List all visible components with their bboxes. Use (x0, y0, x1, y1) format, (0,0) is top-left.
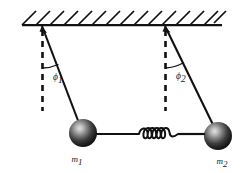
spring-coils (139, 128, 178, 138)
pendulum-right: ϕ2 m2 (163, 26, 233, 169)
angle-arc-2 (166, 63, 184, 68)
mass-subscript-1: 1 (78, 157, 83, 167)
ceiling-group (22, 11, 226, 25)
spring-group (96, 128, 205, 138)
mass-label-1: m1 (72, 154, 83, 167)
angle-label-2: ϕ2 (176, 71, 186, 84)
angle-subscript-1: 1 (58, 75, 63, 85)
pendulum-left: ϕ1 m1 (40, 26, 98, 167)
coupled-pendulum-diagram: ϕ1 m1 ϕ2 m2 (0, 0, 242, 173)
pendulum-bob-1 (69, 119, 97, 147)
angle-subscript-2: 2 (181, 74, 186, 84)
ceiling-hatching (22, 11, 226, 25)
pendulum-figure-svg: ϕ1 m1 ϕ2 m2 (0, 0, 242, 173)
angle-label-1: ϕ1 (53, 72, 63, 85)
pendulum-bob-2 (204, 122, 232, 150)
mass-label-2: m2 (217, 156, 229, 169)
angle-arc-1 (43, 65, 59, 69)
pendulum-string-2 (165, 26, 217, 133)
mass-subscript-2: 2 (223, 159, 228, 169)
